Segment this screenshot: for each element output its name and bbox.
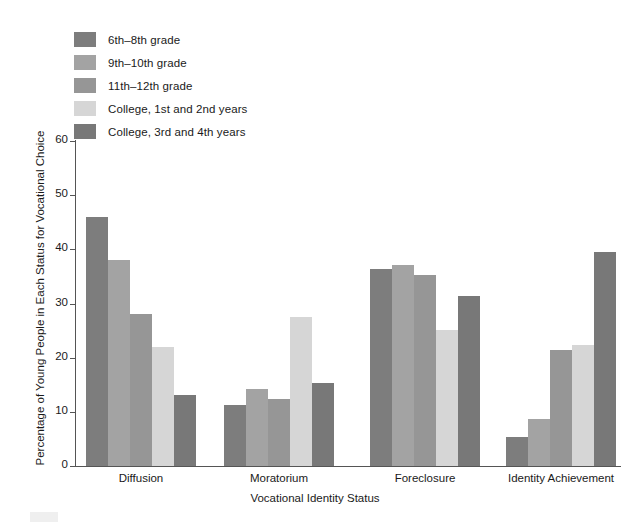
bar [572,345,594,466]
plot-area: 0102030405060DiffusionMoratoriumForeclos… [76,141,620,466]
bar [312,383,334,466]
x-axis-category-label: Diffusion [119,472,164,484]
legend-label: 9th–10th grade [108,57,187,69]
bar-group: Foreclosure [370,141,480,466]
x-axis-category-label: Identity Achievement [508,472,614,484]
bar [550,350,572,466]
y-axis-title: Percentage of Young People in Each Statu… [34,118,46,478]
legend-label: College, 1st and 2nd years [108,103,247,115]
bar [506,437,528,466]
y-axis-tick [70,358,76,359]
bar [224,405,246,466]
legend-item: 9th–10th grade [74,53,247,72]
bar [458,296,480,466]
bar [108,260,130,466]
bar [436,330,458,467]
bar [528,419,550,466]
x-axis-category-label: Foreclosure [395,472,456,484]
legend-label: College, 3rd and 4th years [108,126,246,138]
x-axis-line [75,466,621,467]
legend-swatch [74,124,96,139]
legend-swatch [74,78,96,93]
y-axis-tick [70,412,76,413]
bar [246,389,268,466]
legend-item: College, 3rd and 4th years [74,122,247,141]
y-axis-tick [70,249,76,250]
legend-item: 6th–8th grade [74,30,247,49]
y-axis-tick [70,195,76,196]
legend-item: College, 1st and 2nd years [74,99,247,118]
bar [370,269,392,466]
bar [152,347,174,466]
x-axis-category-label: Moratorium [250,472,308,484]
bar [130,314,152,466]
bar [290,317,312,467]
bar [86,217,108,466]
legend-label: 6th–8th grade [108,34,180,46]
y-axis-tick [70,466,76,467]
bar-chart: 6th–8th grade9th–10th grade11th–12th gra… [0,0,630,528]
bar [268,399,290,466]
chart-legend: 6th–8th grade9th–10th grade11th–12th gra… [74,30,247,145]
legend-swatch [74,101,96,116]
legend-swatch [74,32,96,47]
bar [392,265,414,467]
page-artifact [30,512,58,522]
bar-group: Identity Achievement [506,141,616,466]
legend-label: 11th–12th grade [108,80,192,92]
bar [414,275,436,466]
x-axis-title: Vocational Identity Status [0,492,630,504]
bar-group: Diffusion [86,141,196,466]
bar [174,395,196,467]
y-axis-tick [70,141,76,142]
bar [594,252,616,466]
y-axis-tick [70,304,76,305]
bar-group: Moratorium [224,141,334,466]
legend-swatch [74,55,96,70]
legend-item: 11th–12th grade [74,76,247,95]
